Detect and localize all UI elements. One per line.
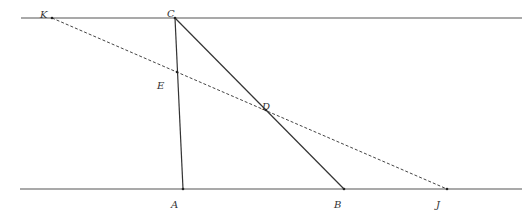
label-e: E [156, 80, 165, 91]
segment-cb [175, 18, 344, 189]
label-k: K [39, 9, 48, 20]
geometry-diagram: K C E D A B J [0, 0, 522, 218]
point-k [51, 17, 54, 20]
label-d: D [261, 101, 270, 112]
label-b: B [333, 199, 341, 210]
label-c: C [167, 8, 175, 19]
dashed-segment-kj [52, 18, 447, 189]
point-a [182, 188, 185, 191]
point-e [176, 71, 179, 74]
segment-ca [175, 18, 183, 189]
label-j: J [434, 199, 441, 210]
label-a: A [170, 199, 178, 210]
point-j [446, 188, 449, 191]
point-b [343, 188, 346, 191]
diagram-svg: K C E D A B J [0, 0, 522, 218]
